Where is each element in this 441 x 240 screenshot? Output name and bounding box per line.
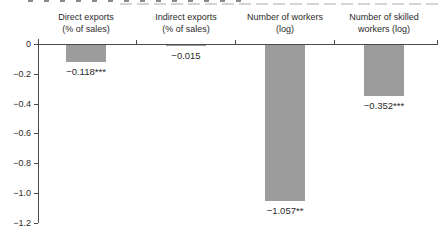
category-header-line: (% of sales): [36, 24, 136, 36]
bar-value-label: −1.057**: [245, 205, 325, 216]
y-tick-label: −1.2: [0, 218, 31, 228]
bar-value-label: −0.015: [146, 50, 226, 61]
x-tick: [334, 40, 335, 44]
category-header: Number of skilledworkers (log): [334, 12, 434, 35]
x-tick: [437, 40, 438, 44]
bar-value-label: −0.118***: [46, 66, 126, 77]
y-axis-line: [38, 39, 39, 223]
y-tick: [34, 133, 38, 134]
x-tick: [136, 40, 137, 44]
figure-canvas: 0−0.2−0.4−0.6−0.8−1.0−1.2Direct exports(…: [0, 0, 441, 240]
y-tick-label: 0: [0, 39, 31, 49]
bar: [66, 44, 106, 62]
bar-chart: 0−0.2−0.4−0.6−0.8−1.0−1.2Direct exports(…: [0, 0, 441, 240]
y-tick: [34, 223, 38, 224]
category-header: Number of workers(log): [235, 12, 335, 35]
bar-value-label: −0.352***: [344, 100, 424, 111]
category-header-line: workers (log): [334, 24, 434, 36]
category-header-line: Number of workers: [235, 12, 335, 24]
category-header-line: Direct exports: [36, 12, 136, 24]
x-axis-zero-line: [38, 44, 438, 45]
y-tick: [34, 104, 38, 105]
category-header: Direct exports(% of sales): [36, 12, 136, 35]
y-tick: [34, 163, 38, 164]
y-tick: [34, 44, 38, 45]
bar: [265, 44, 305, 201]
y-tick: [34, 74, 38, 75]
y-tick: [34, 193, 38, 194]
y-tick-label: −0.8: [0, 158, 31, 168]
y-tick-label: −1.0: [0, 188, 31, 198]
category-header-line: Number of skilled: [334, 12, 434, 24]
cropped-title-fragment: [120, 3, 438, 5]
y-tick-label: −0.2: [0, 69, 31, 79]
category-header-line: (log): [235, 24, 335, 36]
y-tick-label: −0.6: [0, 128, 31, 138]
x-tick: [235, 40, 236, 44]
cropped-title-fragment: [28, 0, 252, 2]
category-header-line: (% of sales): [136, 24, 236, 36]
category-header: Indirect exports(% of sales): [136, 12, 236, 35]
category-header-line: Indirect exports: [136, 12, 236, 24]
y-tick-label: −0.4: [0, 99, 31, 109]
bar: [364, 44, 404, 96]
